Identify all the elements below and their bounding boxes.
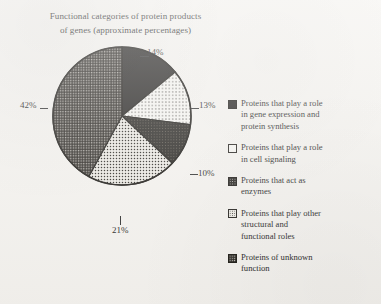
legend-swatch-solid-dark-icon — [228, 100, 237, 109]
legend-swatch-light-open-icon — [228, 144, 237, 153]
legend-swatch-light-dotted-icon — [228, 209, 237, 218]
leader-line-slice-5 — [40, 108, 48, 109]
legend-line-2: enzymes — [241, 186, 271, 196]
legend-item-label: Proteins of unknown function — [241, 252, 313, 275]
figure-title: Functional categories of protein product… — [18, 10, 233, 37]
legend-item-structural-functional: Proteins that play other structural and … — [228, 208, 374, 242]
legend-line-1: Proteins that play a role — [241, 98, 323, 108]
legend-line-3: functional roles — [241, 231, 295, 241]
slice-label-gene-expression: 14% — [147, 47, 164, 57]
pie-chart — [52, 46, 192, 186]
slice-label-unknown-function: 42% — [20, 100, 37, 110]
figure-title-line-2: of genes (approximate percentages) — [18, 24, 233, 38]
legend-item-label: Proteins that act as enzymes — [241, 175, 306, 198]
legend-line-1: Proteins that play other — [241, 208, 321, 218]
chart-legend: Proteins that play a role in gene expres… — [228, 98, 374, 285]
legend-item-label: Proteins that play a role in cell signal… — [241, 142, 323, 165]
leader-line-slice-2 — [191, 108, 199, 109]
legend-line-2: structural and — [241, 219, 288, 229]
legend-item-label: Proteins that play other structural and … — [241, 208, 321, 242]
legend-item-gene-expression: Proteins that play a role in gene expres… — [228, 98, 374, 132]
legend-line-1: Proteins of unknown — [241, 252, 313, 262]
legend-swatch-gray-checker-icon — [228, 254, 237, 263]
legend-swatch-dark-textured-icon — [228, 177, 237, 186]
legend-item-unknown-function: Proteins of unknown function — [228, 252, 374, 275]
legend-item-cell-signaling: Proteins that play a role in cell signal… — [228, 142, 374, 165]
slice-label-cell-signaling: 13% — [199, 100, 216, 110]
legend-item-label: Proteins that play a role in gene expres… — [241, 98, 323, 132]
legend-line-2: function — [241, 263, 270, 273]
leader-line-slice-3 — [190, 174, 198, 175]
slice-label-structural-functional: 21% — [112, 225, 129, 235]
legend-line-2: in gene expression and — [241, 109, 320, 119]
slice-label-enzymes: 10% — [198, 168, 215, 178]
legend-line-3: protein synthesis — [241, 121, 299, 131]
legend-item-enzymes: Proteins that act as enzymes — [228, 175, 374, 198]
legend-line-2: in cell signaling — [241, 154, 296, 164]
figure-title-line-1: Functional categories of protein product… — [18, 10, 233, 24]
pie-chart-svg — [52, 46, 192, 186]
figure-container: Functional categories of protein product… — [0, 0, 381, 304]
leader-line-slice-4 — [120, 216, 121, 225]
legend-line-1: Proteins that act as — [241, 175, 306, 185]
legend-line-1: Proteins that play a role — [241, 142, 323, 152]
